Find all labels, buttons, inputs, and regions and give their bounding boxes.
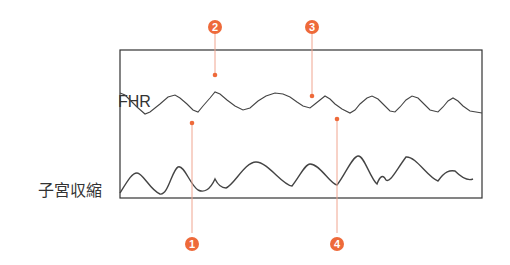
svg-text:1: 1 — [189, 238, 195, 250]
marker-1: 1 — [185, 121, 199, 251]
ctg-diagram: 1 2 3 4 — [0, 0, 510, 265]
marker-2: 2 — [208, 20, 222, 77]
svg-text:4: 4 — [334, 238, 341, 250]
uterine-contraction-trace — [120, 156, 473, 194]
chart-frame — [120, 50, 482, 198]
svg-text:3: 3 — [309, 21, 315, 33]
marker-4: 4 — [330, 117, 344, 251]
fhr-trace — [120, 92, 482, 114]
svg-text:2: 2 — [212, 21, 218, 33]
marker-3: 3 — [305, 20, 319, 98]
